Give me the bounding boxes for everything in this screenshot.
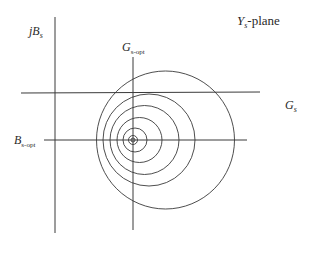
imaginary-axis-label: jBs (27, 24, 43, 40)
b-opt-label: Bs-opt (14, 133, 35, 149)
real-axis-label: Gs (285, 98, 297, 114)
g-opt-label: Gs-opt (122, 40, 145, 56)
plane-title: Ys-plane (237, 13, 280, 30)
diagram-svg: jBs Gs-opt Bs-opt Gs Ys-plane (0, 0, 311, 254)
ys-plane-diagram: jBs Gs-opt Bs-opt Gs Ys-plane (0, 0, 311, 254)
real-axis-gs (21, 92, 260, 93)
